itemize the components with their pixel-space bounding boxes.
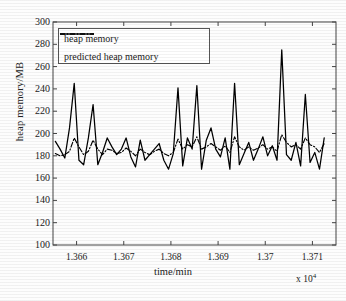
- y-tick-200: 200: [20, 129, 50, 139]
- series-line-heap-memory: [55, 50, 324, 169]
- y-tick-300: 300: [20, 17, 50, 27]
- x-tick-1.371: 1.371: [302, 252, 323, 262]
- y-tick-280: 280: [20, 39, 50, 49]
- legend-item-predicted-heap-memory: predicted heap memory: [59, 47, 209, 65]
- x-tick-1.367: 1.367: [113, 252, 134, 262]
- x-tick-1.366: 1.366: [66, 252, 87, 262]
- y-tick-140: 140: [20, 195, 50, 205]
- legend-dashdot-line-sample: [59, 29, 95, 39]
- y-axis-title: heap memory/MB: [14, 37, 25, 167]
- x-tick-1.37: 1.37: [257, 252, 274, 262]
- x-axis-multiplier-exponent: 4: [313, 272, 317, 280]
- y-tick-180: 180: [20, 151, 50, 161]
- x-axis-title: time/min: [0, 266, 346, 277]
- y-tick-240: 240: [20, 84, 50, 94]
- figure-heap-memory-chart: 100120140160180200220240260280300 1.3661…: [0, 0, 346, 301]
- y-tick-160: 160: [20, 173, 50, 183]
- x-tick-1.369: 1.369: [207, 252, 228, 262]
- y-tick-220: 220: [20, 106, 50, 116]
- y-tick-260: 260: [20, 62, 50, 72]
- y-tick-120: 120: [20, 218, 50, 228]
- y-tick-100: 100: [20, 240, 50, 250]
- legend-label-predicted-heap-memory: predicted heap memory: [64, 51, 158, 62]
- x-axis-exponent-multiplier: x 104: [296, 272, 316, 284]
- chart-legend: heap memory predicted heap memory: [58, 28, 210, 64]
- x-tick-1.368: 1.368: [160, 252, 181, 262]
- x-axis-multiplier-base: x 10: [296, 274, 313, 284]
